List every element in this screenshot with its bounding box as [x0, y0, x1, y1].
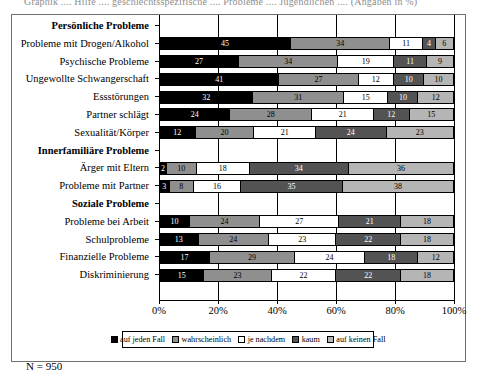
- bar-segment: 21: [311, 108, 373, 121]
- bar-value-label: 13: [160, 234, 198, 245]
- bar-value-label: 24: [160, 109, 229, 120]
- bar-segment: 12: [417, 251, 454, 264]
- bar-segment: 23: [268, 233, 335, 246]
- x-tick: [218, 300, 219, 304]
- chart-row: Partner schlägt2428211215: [12, 106, 467, 124]
- x-tick-label: 60%: [311, 305, 361, 316]
- legend-label: auf jeden Fall: [120, 335, 165, 344]
- bar-value-label: 27: [160, 56, 238, 67]
- legend-swatch: [111, 336, 118, 343]
- bar-value-label: 32: [160, 92, 252, 103]
- bar-segment: 24: [189, 215, 259, 228]
- bar-segment: 9: [426, 55, 454, 68]
- bar-value-label: 45: [160, 38, 290, 49]
- group-header-row: Innerfamiliäre Probleme: [12, 142, 467, 160]
- bar-segment: 6: [435, 37, 454, 50]
- chart-row: Probleme mit Drogen/Alkohol45341146: [12, 35, 467, 53]
- bar-segment: 22: [335, 233, 400, 246]
- legend-label: auf keinen Fall: [336, 335, 385, 344]
- x-tick: [454, 300, 455, 304]
- x-tick-label: 20%: [193, 305, 243, 316]
- bar-segment: 4: [422, 37, 435, 50]
- row-label: Probleme mit Partner: [12, 177, 155, 195]
- bar-segment: 15: [343, 91, 387, 104]
- bar-segment: 10: [159, 215, 189, 228]
- bar-segment: 28: [229, 108, 311, 121]
- legend-swatch: [327, 336, 334, 343]
- bar-value-label: 27: [279, 74, 357, 85]
- bar-segment: 12: [417, 91, 454, 104]
- bar-value-label: 12: [418, 92, 453, 103]
- x-tick: [395, 300, 396, 304]
- bar-value-label: 28: [230, 109, 311, 120]
- legend-entry: je nachdem: [238, 335, 285, 344]
- bar-segment: 34: [238, 55, 337, 68]
- bar-segment: 19: [337, 55, 393, 68]
- stacked-bar: 45341146: [159, 37, 454, 50]
- bar-segment: 38: [342, 180, 454, 193]
- group-header-row: Soziale Probleme: [12, 195, 467, 213]
- bar-value-label: 18: [365, 252, 417, 263]
- legend-entry: auf jeden Fall: [111, 335, 166, 344]
- bar-value-label: 24: [190, 216, 259, 227]
- bar-value-label: 12: [374, 109, 409, 120]
- bar-segment: 27: [159, 55, 238, 68]
- chart-row: Probleme bei Arbeit1024272118: [12, 213, 467, 231]
- stacked-bar: 1729241812: [159, 251, 454, 264]
- bar-segment: 12: [159, 126, 195, 139]
- bar-value-label: 21: [254, 127, 315, 138]
- bar-value-label: 27: [260, 216, 338, 227]
- bar-value-label: 23: [204, 270, 270, 281]
- bar-segment: 23: [203, 269, 270, 282]
- x-tick: [277, 300, 278, 304]
- bar-segment: 45: [159, 37, 290, 50]
- bar-value-label: 9: [427, 56, 453, 67]
- bar-segment: 20: [195, 126, 254, 139]
- bar-value-label: 34: [291, 38, 389, 49]
- chart-row: Sexualität/Körper1220212423: [12, 124, 467, 142]
- bar-segment: 10: [387, 91, 417, 104]
- row-label: Probleme bei Arbeit: [12, 213, 155, 231]
- x-tick: [336, 300, 337, 304]
- x-tick: [159, 300, 160, 304]
- row-label: Sexualität/Körper: [12, 124, 155, 142]
- bar-value-label: 11: [394, 56, 426, 67]
- bar-segment: 10: [423, 73, 454, 86]
- row-label: Partner schlägt: [12, 106, 155, 124]
- bar-value-label: 22: [336, 270, 400, 281]
- chart-row: Schulprobleme1324232218: [12, 231, 467, 249]
- x-tick-label: 80%: [370, 305, 420, 316]
- bar-segment: 18: [400, 233, 454, 246]
- bar-value-label: 41: [160, 74, 278, 85]
- bar-segment: 27: [278, 73, 357, 86]
- stacked-bar: 210183436: [159, 162, 454, 175]
- stacked-bar: 2428211215: [159, 108, 454, 121]
- legend-swatch: [172, 336, 179, 343]
- bar-segment: 2: [159, 162, 166, 175]
- stacked-bar: 1024272118: [159, 215, 454, 228]
- row-tick: [155, 25, 159, 26]
- bar-segment: 17: [159, 251, 209, 264]
- bar-segment: 24: [198, 233, 268, 246]
- bar-value-label: 10: [424, 74, 453, 85]
- row-tick: [155, 203, 159, 204]
- bar-segment: 18: [400, 215, 454, 228]
- x-tick-label: 40%: [252, 305, 302, 316]
- bar-segment: 34: [290, 37, 389, 50]
- bar-segment: 15: [409, 108, 454, 121]
- bar-value-label: 15: [160, 270, 203, 281]
- row-label: Diskriminierung: [12, 266, 155, 284]
- bar-value-label: 18: [197, 163, 249, 174]
- stacked-bar: 273419119: [159, 55, 454, 68]
- row-label: Soziale Probleme: [12, 195, 155, 213]
- x-axis-line: [159, 300, 454, 301]
- chart-row: Finanzielle Probleme1729241812: [12, 248, 467, 266]
- plot-area: Persönliche ProblemeProbleme mit Drogen/…: [12, 15, 467, 300]
- bar-value-label: 11: [390, 38, 422, 49]
- bar-segment: 24: [159, 108, 229, 121]
- bar-value-label: 34: [239, 56, 337, 67]
- row-label: Ungewollte Schwangerschaft: [12, 70, 155, 88]
- row-label: Psychische Probleme: [12, 53, 155, 71]
- chart-row: Essstörungen3231151012: [12, 88, 467, 106]
- bar-segment: 27: [259, 215, 338, 228]
